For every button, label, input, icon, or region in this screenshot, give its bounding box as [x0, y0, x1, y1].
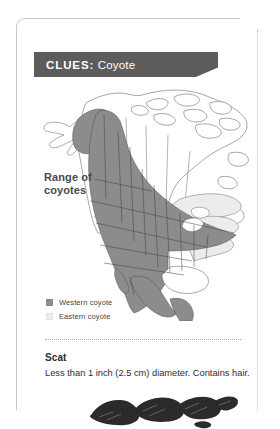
legend-swatch-eastern-icon: [46, 313, 53, 320]
clues-card: CLUES: Coyote: [16, 18, 240, 410]
legend-label-eastern: Eastern coyote: [59, 312, 110, 321]
legend-item-western: Western coyote: [46, 297, 112, 308]
section-divider: [45, 339, 241, 340]
scat-section-body: Less than 1 inch (2.5 cm) diameter. Cont…: [45, 367, 245, 379]
column-divider: [257, 30, 258, 410]
clues-subject: Coyote: [98, 59, 136, 71]
range-label-line-1: Range of: [44, 171, 136, 184]
scat-illustration-icon: [77, 391, 247, 429]
range-label-line-2: coyotes: [44, 184, 136, 197]
north-america-map-graphic: [34, 81, 256, 321]
clues-header-text: CLUES: Coyote: [46, 59, 135, 71]
coyote-scat-photo: [77, 391, 247, 429]
clues-keyword: CLUES:: [46, 59, 94, 71]
legend-swatch-western-icon: [46, 299, 53, 306]
range-map-label: Range of coyotes: [44, 171, 136, 197]
legend-label-western: Western coyote: [59, 298, 112, 307]
scat-section-heading: Scat: [45, 352, 67, 363]
clues-header-banner: CLUES: Coyote: [34, 52, 218, 77]
map-legend: Western coyote Eastern coyote: [46, 297, 112, 325]
legend-item-eastern: Eastern coyote: [46, 311, 112, 322]
range-map: [34, 81, 256, 321]
